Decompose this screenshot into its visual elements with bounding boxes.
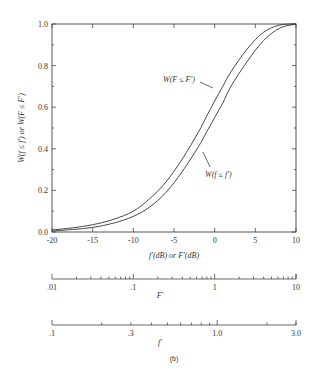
F-prime-axis-title: F′ [156, 291, 164, 300]
annotation-upper: W(F ≤ F′) [163, 75, 195, 84]
y-tick-label: 0.6 [38, 103, 48, 112]
log-tick-label: 3.0 [291, 329, 301, 338]
log-tick-label: .1 [130, 283, 136, 292]
y-axis: 0.00.20.40.60.81.0 [38, 20, 296, 237]
log-tick-label: .1 [49, 329, 55, 338]
curve-line [52, 24, 296, 231]
x-tick-label: 0 [213, 236, 217, 245]
y-tick-label: 0.2 [38, 186, 48, 195]
curve-line [52, 24, 296, 230]
x-tick-label: -10 [128, 236, 139, 245]
log-tick-label: .01 [47, 283, 57, 292]
plot-frame [52, 24, 296, 232]
cumulative-distribution-chart: 0.00.20.40.60.81.0 -20-15-10-50510 W(f ≤… [0, 0, 315, 379]
annotation-lower: W(f ≤ f′) [205, 170, 232, 179]
x-tick-label: -15 [87, 236, 98, 245]
log-tick-label: .3 [128, 329, 134, 338]
y-axis-title: W(f ≤ f′) or W(F ≤ F′) [17, 93, 26, 163]
y-tick-label: 0.8 [38, 62, 48, 71]
F-prime-log-axis: .01.1110 [47, 274, 300, 292]
f-prime-axis-title: f′ [158, 338, 162, 347]
log-tick-label: 1.0 [212, 329, 222, 338]
y-tick-label: 0.4 [38, 145, 48, 154]
annotation-lower-arrow [203, 152, 210, 167]
x-tick-label: 10 [292, 236, 300, 245]
annotation-upper-arrow [200, 82, 213, 88]
figure-caption: (b) [170, 355, 179, 363]
x-axis: -20-15-10-50510 [47, 24, 300, 245]
curves [52, 24, 296, 231]
x-tick-label: 5 [253, 236, 257, 245]
log-tick-label: 10 [292, 283, 300, 292]
log-tick-label: 1 [213, 283, 217, 292]
x-tick-label: -20 [47, 236, 58, 245]
f-prime-log-axis: .1.31.03.0 [49, 320, 301, 338]
x-axis-title: f′(dB) or F′(dB) [149, 251, 199, 260]
y-tick-label: 1.0 [38, 20, 48, 29]
x-tick-label: -5 [171, 236, 178, 245]
